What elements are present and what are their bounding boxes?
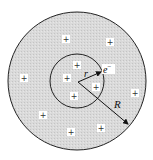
svg-text:+: + (132, 89, 139, 98)
plus-charge-icon: + (63, 74, 71, 83)
svg-text:+: + (40, 111, 47, 120)
svg-text:+: + (98, 124, 105, 133)
svg-text:+: + (68, 128, 75, 137)
svg-text:+: + (64, 74, 71, 83)
plus-charge-icon: + (106, 38, 114, 47)
svg-text:+: + (71, 92, 78, 101)
sphere-charge-diagram: +++++++++++ r e− R (0, 0, 153, 160)
plus-charge-icon: + (62, 35, 70, 44)
plus-charge-icon: + (67, 128, 75, 137)
svg-text:+: + (107, 38, 114, 47)
plus-charge-icon: + (70, 92, 78, 101)
plus-charge-icon: + (73, 61, 81, 70)
small-radius-label: r (84, 68, 88, 79)
plus-charge-icon: + (39, 111, 47, 120)
plus-charge-icon: + (92, 83, 100, 92)
plus-charge-icon: + (20, 74, 28, 83)
large-radius-label: R (113, 98, 121, 110)
svg-text:+: + (21, 74, 28, 83)
plus-charge-icon: + (131, 89, 139, 98)
svg-text:+: + (63, 35, 70, 44)
svg-text:+: + (93, 83, 100, 92)
outer-sphere (8, 12, 146, 150)
svg-text:+: + (74, 61, 81, 70)
plus-charge-icon: + (97, 124, 105, 133)
